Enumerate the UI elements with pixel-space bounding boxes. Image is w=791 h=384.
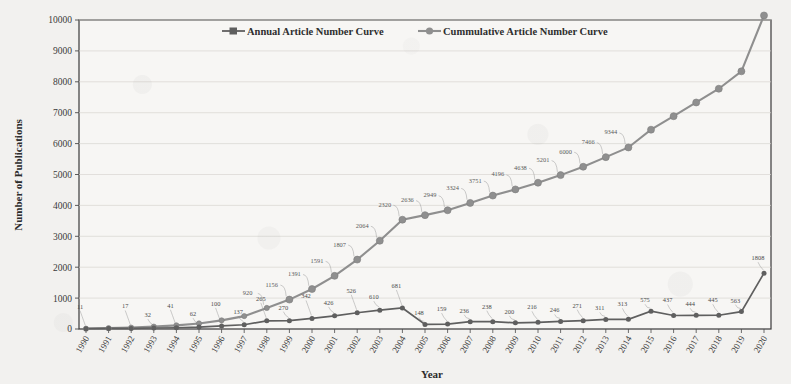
cumulative-data-point (557, 172, 564, 179)
annual-data-point (423, 322, 428, 327)
annual-data-point (219, 323, 224, 328)
x-tick-label: 2011 (548, 334, 565, 354)
annual-data-point (694, 313, 699, 318)
x-tick-label: 2001 (322, 334, 340, 355)
cumulative-data-point (512, 186, 519, 193)
x-tick-label: 2007 (458, 334, 476, 355)
y-tick-label: 3000 (53, 232, 72, 242)
x-tick-label: 2019 (729, 334, 747, 355)
x-tick-label: 1992 (119, 334, 137, 355)
annual-data-label: 100 (211, 300, 221, 307)
annual-data-label: 41 (167, 302, 173, 309)
cumulative-data-point (354, 256, 361, 263)
cumulative-data-point (331, 272, 338, 279)
annual-data-label: 437 (663, 296, 673, 303)
cumulative-data-label: 4196 (491, 170, 504, 177)
x-tick-label: 2018 (706, 334, 724, 355)
annual-data-point (129, 326, 134, 331)
x-tick-label: 2002 (345, 334, 363, 355)
y-tick-label: 1000 (53, 294, 72, 304)
x-tick-label: 2016 (661, 334, 679, 355)
cumulative-data-label: 1391 (288, 270, 301, 277)
cumulative-data-label: 7466 (582, 138, 595, 145)
cumulative-data-point (625, 144, 632, 151)
y-tick-label: 6000 (53, 139, 72, 149)
annual-data-label: 200 (505, 308, 515, 315)
annual-data-point (264, 318, 269, 323)
legend-label-cumulative: Cummulative Article Number Curve (443, 26, 608, 37)
annual-data-point (400, 305, 405, 310)
legend-item-annual: Annual Article Number Curve (222, 26, 384, 37)
x-tick-label: 1993 (141, 334, 159, 355)
annual-data-label: 426 (324, 299, 334, 306)
legend-item-cumulative: Cummulative Article Number Curve (418, 26, 608, 37)
cumulative-data-point (738, 68, 745, 75)
legend-marker-annual (230, 28, 238, 35)
cumulative-data-label: 9344 (604, 128, 618, 135)
annual-data-label: 238 (482, 303, 492, 310)
annual-data-label: 610 (369, 293, 379, 300)
annual-data-label: 246 (550, 306, 560, 313)
annual-data-label: 681 (392, 282, 402, 289)
cumulative-data-label: 2064 (356, 222, 370, 229)
x-tick-label: 1998 (254, 334, 272, 355)
cumulative-data-label: 2320 (378, 201, 391, 208)
y-tick-label: 5000 (53, 170, 72, 180)
x-tick-label: 1994 (164, 334, 182, 355)
cumulative-data-point (715, 85, 722, 92)
annual-data-label: 236 (459, 307, 469, 314)
annual-data-label: 11 (77, 303, 83, 310)
x-tick-label: 1999 (277, 334, 295, 355)
x-tick-label: 2006 (435, 334, 453, 355)
annual-data-point (581, 318, 586, 323)
x-tick-label: 2003 (367, 334, 385, 355)
annual-data-label: 563 (731, 297, 741, 304)
annual-data-label: 265 (256, 295, 266, 302)
x-tick-label: 2009 (503, 334, 521, 355)
x-tick-label: 2012 (571, 334, 589, 355)
annual-data-point (739, 309, 744, 314)
cumulative-data-label: 2636 (401, 196, 414, 203)
annual-data-label: 445 (708, 296, 718, 303)
cumulative-data-point (286, 296, 293, 303)
cumulative-data-label: 3324 (446, 184, 460, 191)
annual-data-label: 313 (618, 300, 628, 307)
cumulative-data-point (376, 237, 383, 244)
annual-data-label: 137 (233, 308, 243, 315)
annual-data-point (716, 313, 721, 318)
annual-data-point (310, 316, 315, 321)
annual-data-label: 526 (346, 287, 356, 294)
annual-data-point (174, 325, 179, 330)
annual-data-point (490, 319, 495, 324)
annual-data-point (332, 313, 337, 318)
annual-data-point (558, 319, 563, 324)
x-tick-label: 1997 (232, 334, 250, 355)
cumulative-data-label: 1591 (311, 257, 324, 264)
cumulative-data-label: 5201 (537, 156, 550, 163)
y-tick-label: 0 (67, 324, 72, 334)
annual-data-label: 62 (190, 310, 196, 317)
cumulative-data-label: 1156 (265, 281, 278, 288)
cumulative-data-point (761, 12, 768, 19)
y-tick-label: 8000 (53, 77, 72, 87)
x-axis-tick-labels: 1990199119921993199419951996199719981999… (74, 334, 770, 355)
x-tick-label: 2008 (480, 334, 498, 355)
cumulative-data-point (580, 163, 587, 170)
y-tick-label: 4000 (53, 201, 72, 211)
y-tick-label: 2000 (53, 263, 72, 273)
annual-data-point (671, 313, 676, 318)
annual-data-point (536, 320, 541, 325)
annual-data-label: 342 (301, 292, 311, 299)
cumulative-data-point (648, 126, 655, 133)
x-axis-title: Year (421, 368, 443, 380)
annual-data-point (603, 317, 608, 322)
annual-data-label: 271 (572, 302, 582, 309)
annual-data-point (513, 320, 518, 325)
annual-data-point (84, 326, 89, 331)
cumulative-data-point (489, 192, 496, 199)
annual-data-label: 311 (595, 304, 604, 311)
x-tick-label: 2020 (752, 334, 770, 355)
annual-data-label: 575 (640, 296, 650, 303)
cumulative-data-label: 4638 (514, 164, 527, 171)
annual-data-point (445, 322, 450, 327)
